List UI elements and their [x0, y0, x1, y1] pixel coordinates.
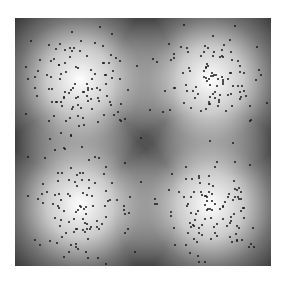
scatter-point — [209, 140, 211, 142]
scatter-point — [67, 193, 69, 195]
scatter-point — [44, 157, 46, 159]
scatter-point — [87, 100, 89, 102]
scatter-point — [199, 182, 201, 184]
scatter-point — [233, 213, 235, 215]
scatter-point — [37, 198, 39, 200]
scatter-point — [214, 203, 216, 205]
scatter-point — [39, 59, 41, 61]
scatter-point — [27, 156, 29, 158]
scatter-point — [103, 173, 105, 175]
scatter-point — [79, 172, 81, 174]
scatter-point — [42, 202, 44, 204]
scatter-point — [168, 189, 170, 191]
scatter-point — [85, 251, 87, 253]
scatter-point — [61, 105, 63, 107]
scatter-point — [187, 51, 189, 53]
scatter-point — [68, 221, 70, 223]
scatter-point — [208, 191, 210, 193]
scatter-point — [116, 199, 118, 201]
scatter-point — [219, 56, 221, 58]
scatter-point — [222, 83, 224, 85]
scatter-point — [123, 205, 125, 207]
scatter-point — [221, 76, 223, 78]
scatter-point — [239, 65, 241, 67]
scatter-point — [216, 223, 218, 225]
scatter-point — [69, 47, 71, 49]
scatter-point — [34, 239, 36, 241]
scatter-point — [97, 257, 99, 259]
scatter-point — [194, 219, 196, 221]
scatter-point — [55, 48, 57, 50]
scatter-point — [64, 49, 66, 51]
scatter-point — [85, 206, 87, 208]
scatter-point — [164, 90, 166, 92]
scatter-point — [243, 90, 245, 92]
scatter-point — [127, 228, 129, 230]
scatter-point — [193, 225, 195, 227]
scatter-point — [219, 208, 221, 210]
scatter-point — [59, 43, 61, 45]
scatter-point — [57, 172, 59, 174]
scatter-point — [124, 118, 126, 120]
scatter-point — [218, 101, 220, 103]
scatter-point — [111, 182, 113, 184]
scatter-point — [49, 240, 51, 242]
scatter-point — [54, 217, 56, 219]
scatter-point — [53, 58, 55, 60]
scatter-point — [252, 227, 254, 229]
scatter-point — [221, 49, 223, 51]
scatter-point — [91, 195, 93, 197]
scatter-point — [65, 71, 67, 73]
scatter-point — [250, 243, 252, 245]
scatter-point — [209, 96, 211, 98]
scatter-point — [214, 97, 216, 99]
scatter-point — [105, 74, 107, 76]
scatter-point — [119, 78, 121, 80]
scatter-point — [60, 101, 62, 103]
scatter-point — [236, 189, 238, 191]
scatter-point — [86, 55, 88, 57]
scatter-point — [200, 191, 202, 193]
scatter-point — [68, 179, 70, 181]
scatter-point — [140, 181, 142, 183]
scatter-point — [89, 228, 91, 230]
scatter-point — [105, 190, 107, 192]
scatter-point — [206, 80, 208, 82]
scatter-point — [190, 226, 192, 228]
scatter-point — [41, 193, 43, 195]
scatter-point — [239, 71, 241, 73]
scatter-point — [87, 238, 89, 240]
scatter-point — [68, 251, 70, 253]
scatter-point — [111, 33, 113, 35]
scatter-point — [70, 135, 72, 137]
scatter-point — [60, 199, 62, 201]
scatter-point — [211, 72, 213, 74]
scatter-point — [229, 72, 231, 74]
scatter-point — [27, 195, 29, 197]
scatter-point — [96, 226, 98, 228]
scatter-point — [72, 87, 74, 89]
scatter-point — [42, 183, 44, 185]
scatter-point — [78, 125, 80, 127]
heatmap-plot-area — [15, 18, 271, 266]
scatter-point — [65, 120, 67, 122]
scatter-point — [237, 60, 239, 62]
scatter-point — [206, 200, 208, 202]
scatter-point — [185, 166, 187, 168]
scatter-point — [82, 172, 84, 174]
scatter-point — [240, 96, 242, 98]
scatter-point — [226, 225, 228, 227]
scatter-point — [248, 246, 250, 248]
scatter-point — [61, 236, 63, 238]
scatter-point — [154, 203, 156, 205]
scatter-point — [73, 231, 75, 233]
scatter-point — [173, 57, 175, 59]
scatter-point — [53, 115, 55, 117]
scatter-point — [237, 85, 239, 87]
scatter-point — [212, 185, 214, 187]
scatter-point — [170, 59, 172, 61]
scatter-point — [193, 191, 195, 193]
scatter-point — [210, 238, 212, 240]
scatter-point — [198, 227, 200, 229]
scatter-point — [94, 156, 96, 158]
